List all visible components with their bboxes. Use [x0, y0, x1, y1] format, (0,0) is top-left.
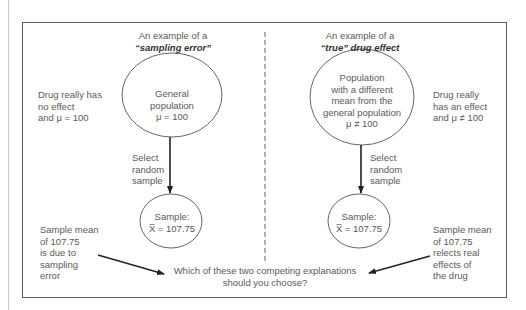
left-conclusion-line: error [40, 270, 99, 282]
right-header-line1: An example of a [305, 30, 415, 42]
right-sample-label: Sample: X̅ = 107.75 [327, 211, 391, 234]
right-side-note-line: Drug really [433, 89, 487, 101]
left-header-title: “sampling error” [118, 42, 228, 54]
left-sample-label: Sample: X̅ = 107.75 [140, 211, 204, 234]
left-conclusion-line: Sample mean [40, 224, 99, 236]
right-population-line: mean from the [308, 95, 416, 107]
right-conclusion: Sample mean of 107.75 relects real effec… [433, 224, 492, 282]
left-population-line: General [127, 88, 217, 100]
right-conclusion-line: effects of [433, 259, 492, 271]
left-conclusion-line: of 107.75 [40, 236, 99, 248]
right-header: An example of a “true” drug effect [305, 30, 415, 53]
left-arrow-label-line: Select [132, 152, 164, 164]
question-line: Which of these two competing explanation… [165, 265, 365, 277]
left-side-note-line: Drug really has [38, 89, 102, 101]
right-arrow-label: Select random sample [370, 152, 402, 187]
right-conclusion-line: relects real [433, 247, 492, 259]
right-population-line: μ ≠ 100 [308, 118, 416, 130]
left-header: An example of a “sampling error” [118, 30, 228, 53]
right-header-title: “true” drug effect [305, 42, 415, 54]
right-sample-line: Sample: [327, 211, 391, 223]
right-side-note-line: has an effect [433, 101, 487, 113]
left-header-line1: An example of a [118, 30, 228, 42]
right-conclusion-line: of 107.75 [433, 236, 492, 248]
right-population-line: general population [308, 107, 416, 119]
right-conclusion-line: Sample mean [433, 224, 492, 236]
right-sample-line: X̅ = 107.75 [327, 223, 391, 235]
left-conclusion-arrow [98, 255, 164, 274]
right-arrow-label-line: Select [370, 152, 402, 164]
left-side-note-line: and μ = 100 [38, 112, 102, 124]
left-arrow-label: Select random sample [132, 152, 164, 187]
right-arrow-label-line: random [370, 164, 402, 176]
left-conclusion-line: sampling [40, 259, 99, 271]
left-arrow-label-line: random [132, 164, 164, 176]
question-line: should you choose? [165, 277, 365, 289]
right-side-note-line: and μ ≠ 100 [433, 112, 487, 124]
left-sample-line: Sample: [140, 211, 204, 223]
left-side-note: Drug really has no effect and μ = 100 [38, 89, 102, 124]
left-conclusion: Sample mean of 107.75 is due to sampling… [40, 224, 99, 282]
left-arrow-label-line: sample [132, 175, 164, 187]
left-side-note-line: no effect [38, 101, 102, 113]
right-side-note: Drug really has an effect and μ ≠ 100 [433, 89, 487, 124]
left-conclusion-line: is due to [40, 247, 99, 259]
left-population-line: population [127, 100, 217, 112]
right-population-line: Population [308, 72, 416, 84]
right-population-label: Population with a different mean from th… [308, 72, 416, 130]
left-population-label: General population μ = 100 [127, 88, 217, 123]
question: Which of these two competing explanation… [165, 265, 365, 288]
right-population-line: with a different [308, 84, 416, 96]
right-arrow-label-line: sample [370, 175, 402, 187]
right-conclusion-line: the drug [433, 270, 492, 282]
left-population-line: μ = 100 [127, 111, 217, 123]
right-conclusion-arrow [369, 256, 430, 273]
left-sample-line: X̅ = 107.75 [140, 223, 204, 235]
